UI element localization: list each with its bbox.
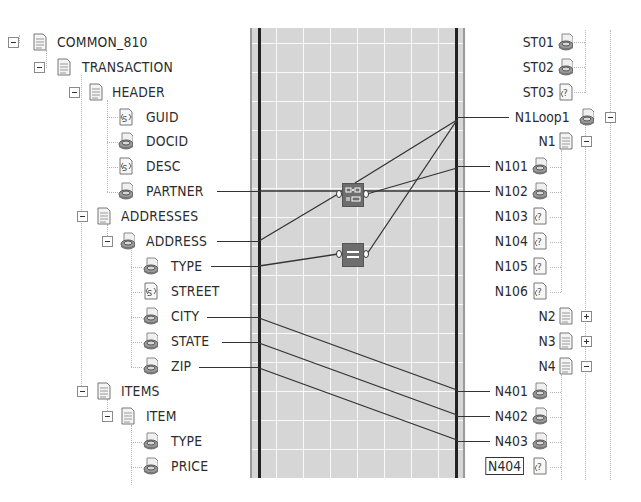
node-label: N106 <box>495 283 528 299</box>
dest-node-n1[interactable]: N1 <box>500 131 610 151</box>
tree-guide <box>107 100 108 192</box>
tree-guide <box>131 442 142 443</box>
tree-guide <box>550 217 561 218</box>
tree-guide <box>574 42 585 43</box>
collapse-icon[interactable] <box>581 361 592 372</box>
record-icon <box>88 83 104 101</box>
collapse-icon[interactable] <box>8 37 19 48</box>
collapse-icon[interactable] <box>69 87 80 98</box>
node-label: DESC <box>146 158 181 174</box>
collapse-icon[interactable] <box>581 136 592 147</box>
link-stub <box>217 191 259 192</box>
link-stub <box>211 266 259 267</box>
node-label: ST01 <box>523 34 554 50</box>
tree-guide <box>46 50 47 68</box>
node-label: ADDRESS <box>146 233 207 249</box>
element-icon <box>117 182 133 200</box>
tree-guide <box>131 367 142 368</box>
node-label: ITEMS <box>121 383 160 399</box>
element-icon <box>578 108 594 126</box>
element-icon <box>142 432 158 450</box>
collapse-icon[interactable] <box>77 386 88 397</box>
record-icon <box>56 58 72 76</box>
dest-node-st02[interactable]: ST02 <box>500 57 600 77</box>
record-icon <box>32 33 48 51</box>
link-stub <box>457 166 490 167</box>
dest-node-n104[interactable]: N104 <box>490 231 590 251</box>
element-icon <box>557 33 573 51</box>
unknown-field-icon <box>532 457 548 475</box>
unknown-field-icon <box>532 207 548 225</box>
element-icon <box>119 232 135 250</box>
collapse-icon[interactable] <box>77 211 88 222</box>
node-label: STREET <box>171 283 219 299</box>
node-label: PARTNER <box>146 183 204 199</box>
tree-guide <box>81 75 82 392</box>
record-icon <box>558 357 574 375</box>
dest-node-n2[interactable]: N2 <box>500 306 610 326</box>
string-field-icon <box>118 108 134 126</box>
node-label: COMMON_810 <box>57 34 148 50</box>
dest-node-n404[interactable]: N404 <box>482 456 592 476</box>
node-label: DOCID <box>146 133 188 149</box>
link-stub <box>457 191 490 192</box>
dest-node-n1loop1[interactable]: N1Loop1 <box>500 107 630 127</box>
grid-right-border <box>463 28 465 478</box>
node-label: N104 <box>495 233 528 249</box>
tree-guide <box>131 267 142 268</box>
grid-left-splitter[interactable] <box>258 28 261 478</box>
tree-guide <box>550 192 561 193</box>
node-label: N101 <box>495 158 528 174</box>
element-icon <box>531 182 547 200</box>
dest-node-n102[interactable]: N102 <box>490 181 590 201</box>
dest-node-n401[interactable]: N401 <box>490 381 590 401</box>
dest-node-n105[interactable]: N105 <box>490 256 590 276</box>
link-stub <box>222 342 259 343</box>
node-label: GUID <box>146 109 179 125</box>
tree-guide <box>131 292 142 293</box>
node-label: PRICE <box>171 458 208 474</box>
collapse-icon[interactable] <box>605 112 616 123</box>
dest-node-st03[interactable]: ST03 <box>500 82 600 102</box>
node-label: N2 <box>539 308 556 324</box>
concatenate-icon <box>343 184 363 206</box>
expand-icon[interactable] <box>581 311 592 322</box>
string-field-icon <box>143 282 159 300</box>
dest-node-n106[interactable]: N106 <box>490 281 590 301</box>
node-label: N403 <box>495 433 528 449</box>
unknown-field-icon <box>532 232 548 250</box>
node-label: N4 <box>539 358 556 374</box>
record-icon <box>96 207 112 225</box>
tree-guide <box>19 35 20 43</box>
node-label: HEADER <box>112 84 165 100</box>
collapse-icon[interactable] <box>34 62 45 73</box>
element-icon <box>142 257 158 275</box>
dest-node-n402[interactable]: N402 <box>490 406 590 426</box>
node-label: ST03 <box>523 84 554 100</box>
dest-node-st01[interactable]: ST01 <box>500 32 600 52</box>
node-label: N1 <box>539 133 556 149</box>
record-icon <box>120 407 136 425</box>
record-icon <box>558 307 574 325</box>
tree-guide <box>610 30 611 480</box>
tree-guide <box>574 92 585 93</box>
dest-node-n101[interactable]: N101 <box>490 156 590 176</box>
tree-guide <box>550 242 561 243</box>
expand-icon[interactable] <box>581 336 592 347</box>
string-concatenate-functoid[interactable] <box>342 183 364 207</box>
dest-node-n4[interactable]: N4 <box>500 356 610 376</box>
grid-right-splitter[interactable] <box>455 28 458 478</box>
node-label: N402 <box>495 408 528 424</box>
element-icon <box>142 307 158 325</box>
node-label: N1Loop1 <box>515 109 570 125</box>
dest-node-n3[interactable]: N3 <box>500 331 610 351</box>
node-label: ADDRESSES <box>121 208 198 224</box>
element-icon <box>531 432 547 450</box>
dest-node-n103[interactable]: N103 <box>490 206 590 226</box>
dest-node-n403[interactable]: N403 <box>490 431 590 451</box>
collapse-icon[interactable] <box>102 236 113 247</box>
equal-functoid[interactable] <box>342 243 364 267</box>
element-icon <box>117 132 133 150</box>
tree-guide <box>131 317 142 318</box>
collapse-icon[interactable] <box>102 411 113 422</box>
